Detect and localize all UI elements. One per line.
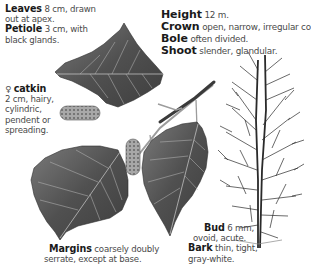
catkin-hanging <box>126 139 140 175</box>
catkin-description: ♀ catkin 2 cm, hairy, cylindric, pendent… <box>5 84 54 135</box>
catkin-line: cylindric, <box>5 104 54 114</box>
bark-line: Bark thin, tight, <box>188 243 258 253</box>
catkin-line: spreading. <box>5 125 54 135</box>
margins-term: Margins <box>49 243 92 254</box>
margins-line: Margins coarsely doubly <box>44 244 159 254</box>
bud-desc: 6 mm, <box>227 223 254 233</box>
bark-term: Bark <box>188 242 213 253</box>
bud-term: Bud <box>204 222 225 233</box>
catkin-line: 2 cm, hairy, <box>5 94 54 104</box>
bud-line: Bud 6 mm, <box>188 223 258 233</box>
petiole-line-1: Petiole 3 cm, with <box>5 24 96 34</box>
leaves-desc: 8 cm, drawn <box>45 4 96 14</box>
margins-desc-2: serrate, except at base. <box>44 254 159 264</box>
bud-bark-description: Bud 6 mm, ovoid, acute. Bark thin, tight… <box>188 223 258 264</box>
shoot-term: Shoot <box>161 44 197 57</box>
petiole-term: Petiole <box>5 23 42 34</box>
petiole-desc-2: black glands. <box>5 35 96 45</box>
catkin-line: pendent or <box>5 115 54 125</box>
catkin-term: catkin <box>14 83 47 94</box>
crown-desc: open, narrow, irregular cone. <box>202 22 311 32</box>
bole-desc: often divided. <box>190 34 248 44</box>
margins-description: Margins coarsely doubly serrate, except … <box>44 244 159 264</box>
bark-desc: thin, tight, <box>215 243 257 253</box>
petiole-desc: 3 cm, with <box>45 24 88 34</box>
leaf-lower-left <box>31 146 128 240</box>
female-symbol-icon: ♀ <box>5 84 11 94</box>
height-desc: 12 m. <box>204 10 228 20</box>
leaf-description: Leaves 8 cm, drawn out at apex. Petiole … <box>5 4 96 45</box>
tree-silhouette <box>218 52 304 248</box>
leaves-line-1: Leaves 8 cm, drawn <box>5 4 96 14</box>
catkin-horizontal <box>60 106 100 120</box>
shoot-line: Shoot slender, glandular. <box>161 45 311 57</box>
catkin-heading: ♀ catkin <box>5 84 54 94</box>
leaves-term: Leaves <box>5 3 42 14</box>
bark-desc-2: gray-white. <box>188 254 258 264</box>
margins-desc: coarsely doubly <box>94 244 159 254</box>
shoot-desc: slender, glandular. <box>199 46 277 56</box>
tree-description: Height 12 m. Crown open, narrow, irregul… <box>161 9 311 57</box>
